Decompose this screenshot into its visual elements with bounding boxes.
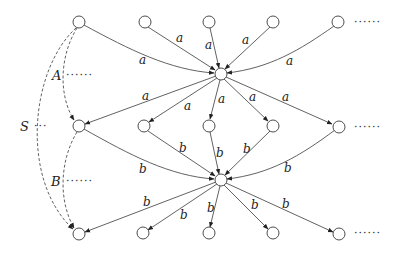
label-a-mid1: a — [142, 89, 149, 103]
ellipsis-S: ··· — [34, 120, 48, 133]
node-mid-4 — [267, 120, 279, 132]
edge-huba-mid5 — [226, 77, 332, 124]
set-label-B: B — [50, 174, 61, 189]
edge-mid1-hubb — [84, 129, 214, 179]
label-b-mid3: b — [216, 146, 224, 160]
edge-hubb-bot5 — [226, 183, 333, 232]
ellipsis-bottom-row: ······ — [354, 227, 381, 240]
node-top-2 — [139, 16, 151, 28]
node-mid-5 — [333, 121, 345, 133]
label-b-mid4: b — [243, 142, 251, 156]
node-top-1 — [73, 16, 85, 28]
node-mid-1 — [73, 120, 85, 132]
label-a-mid2: a — [184, 99, 191, 113]
node-bot-1 — [73, 228, 85, 240]
label-a-top2: a — [176, 31, 183, 45]
label-b-bot2: b — [180, 208, 188, 222]
node-hub-a — [215, 68, 227, 80]
set-label-S: S — [20, 119, 29, 134]
label-a-top4: a — [242, 33, 249, 47]
automaton-diagram: a a a a a a a a a a b b b b b b b b b b … — [0, 0, 403, 256]
ellipsis-B: ······ — [66, 175, 93, 188]
edge-top1-huba — [84, 25, 214, 73]
node-top-4 — [267, 16, 279, 28]
label-a-top1: a — [139, 53, 146, 67]
edge-huba-mid2 — [149, 78, 217, 122]
label-a-mid3: a — [218, 92, 225, 106]
label-b-mid2: b — [179, 141, 187, 155]
label-b-mid5: b — [284, 161, 292, 175]
edge-huba-mid1 — [85, 76, 216, 124]
node-mid-3 — [203, 120, 215, 132]
label-b-bot5: b — [282, 197, 290, 211]
node-hub-b — [215, 174, 227, 186]
node-mid-2 — [138, 120, 150, 132]
middle-row-nodes — [73, 120, 345, 133]
ellipsis-middle-row: ······ — [354, 121, 381, 134]
bottom-row-nodes — [73, 227, 345, 240]
set-label-A: A — [51, 68, 61, 83]
label-b-mid1: b — [139, 162, 147, 176]
ellipsis-top-row: ······ — [354, 16, 381, 29]
node-bot-2 — [137, 227, 149, 239]
node-top-3 — [203, 16, 215, 28]
label-a-mid4: a — [249, 90, 256, 104]
node-bot-4 — [267, 227, 279, 239]
node-bot-5 — [333, 228, 345, 240]
node-top-5 — [332, 16, 344, 28]
label-a-top5: a — [286, 54, 293, 68]
node-bot-3 — [203, 227, 215, 239]
edge-huba-mid4 — [224, 79, 268, 121]
label-b-bot4: b — [251, 198, 259, 212]
label-a-top3: a — [205, 38, 212, 52]
label-b-bot3: b — [207, 201, 215, 215]
label-b-bot1: b — [143, 195, 151, 209]
edge-hubb-bot4 — [224, 185, 268, 229]
ellipsis-A: ······ — [66, 69, 93, 82]
label-a-mid5: a — [282, 90, 289, 104]
top-row-nodes — [73, 16, 344, 28]
